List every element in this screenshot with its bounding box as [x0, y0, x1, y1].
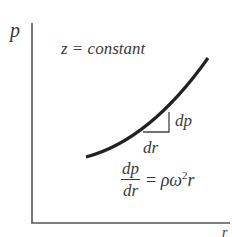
triangle-rise-label: dp — [175, 112, 192, 129]
condition-label: z = constant — [61, 40, 145, 57]
y-axis-label: p — [10, 20, 20, 40]
triangle-run-label: dr — [143, 139, 158, 156]
equation-numerator: dp — [121, 160, 140, 177]
slope-triangle — [143, 112, 169, 132]
equals-sign: = — [146, 170, 156, 190]
pressure-radius-diagram — [0, 0, 232, 237]
condition-text: z = constant — [61, 39, 145, 58]
x-axis-label: r — [222, 226, 227, 237]
rhs-r: r — [188, 170, 195, 190]
equation-denominator: dr — [122, 182, 139, 199]
rho-omega: ρω — [161, 170, 182, 190]
equation-fraction: dp dr — [121, 160, 140, 199]
fraction-bar — [121, 179, 140, 180]
equation-rhs: = ρω2r — [146, 170, 195, 189]
